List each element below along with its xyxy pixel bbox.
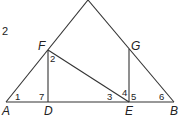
angle-label-3: 3 [107,91,112,102]
point-label-B: B [170,104,178,117]
angle-label-2: 2 [50,53,55,64]
point-label-D: D [44,104,53,117]
angle-label-6: 6 [159,91,164,102]
segment-A-apex [6,0,88,102]
angle-label-5: 5 [131,91,136,102]
point-label-E: E [125,104,134,117]
point-label-G: G [131,39,140,53]
angle-label-7: 7 [39,91,44,102]
point-label-A: A [1,104,10,117]
angle-label-4: 4 [122,87,127,98]
problem-number: 2 [2,25,8,37]
geometry-diagram: 2 F G A D E B 1 2 3 4 5 6 7 [0,0,179,117]
point-label-F: F [38,39,46,53]
angle-label-1: 1 [15,91,20,102]
segment-FE [48,50,129,102]
